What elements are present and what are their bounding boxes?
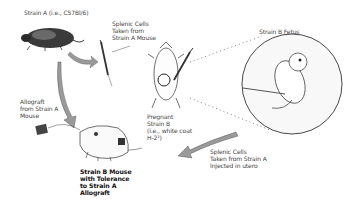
label-splenic-bottom-3: Injected in utero: [210, 162, 258, 169]
arrow-to-tolerant-mouse-icon: [57, 62, 76, 128]
label-pregnant-4: H-2²): [147, 134, 162, 141]
label-pregnant-2: Strain B: [147, 120, 170, 127]
label-allograft-2: from Strain A: [20, 105, 58, 112]
label-splenic-bottom-1: Splenic Cells: [210, 148, 247, 155]
label-result-4: Allograft: [80, 189, 110, 196]
label-pregnant-3: (i.e., white coat: [147, 127, 192, 134]
tolerant-mouse-icon: [80, 126, 142, 161]
label-splenic-bottom-2: Taken from Strain A: [210, 155, 267, 162]
tolerance-diagram: Strain A (i.e., C57Bl/6) Splenic Cells T…: [0, 0, 345, 207]
label-splenic-top-3: Strain A Mouse: [112, 34, 156, 41]
label-splenic-top-2: Taken from: [112, 27, 144, 34]
arrow-strain-a-to-syringe-icon: [68, 52, 98, 68]
fetus-magnified-icon: [242, 34, 342, 134]
label-strain-a: Strain A (i.e., C57Bl/6): [24, 9, 88, 16]
label-pregnant-1: Pregnant: [147, 113, 173, 120]
syringe-icon: [100, 40, 130, 86]
label-allograft-1: Allograft: [20, 98, 45, 105]
label-allograft-3: Mouse: [20, 112, 39, 119]
pregnant-mouse-icon: [148, 42, 193, 108]
label-splenic-top-1: Splenic Cells: [112, 20, 149, 27]
label-fetus: Strain B Fetus: [259, 28, 299, 35]
strain-a-mouse-icon: [21, 28, 84, 51]
